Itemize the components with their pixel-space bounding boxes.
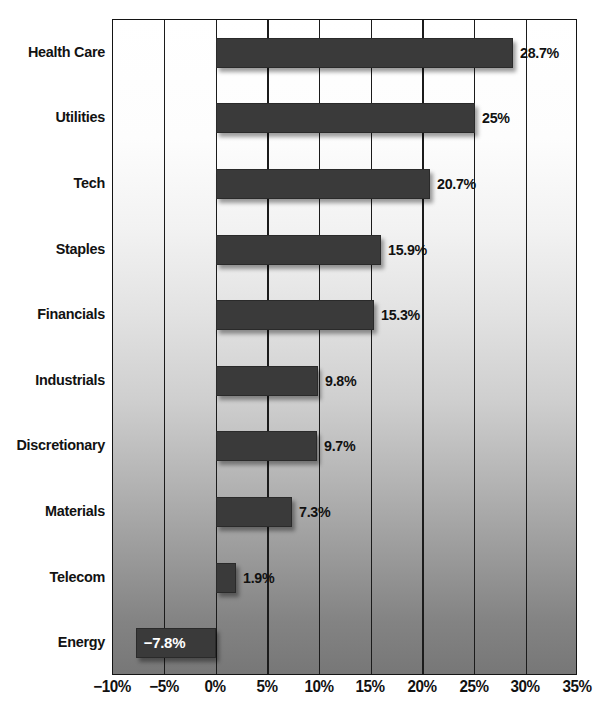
category-label-energy: Energy [7, 634, 105, 650]
x-tick-label: 5% [256, 678, 277, 696]
bar-row: 28.7% [113, 20, 576, 86]
bar-row: 25% [113, 86, 576, 152]
category-label-telecom: Telecom [7, 569, 105, 585]
bar-row: 15.3% [113, 282, 576, 348]
bar-row: 1.9% [113, 545, 576, 611]
x-tick-label: 35% [562, 678, 591, 696]
x-tick-label: 10% [304, 678, 333, 696]
bar-industrials [216, 366, 317, 396]
category-label-financials: Financials [7, 306, 105, 322]
category-label-industrials: Industrials [7, 372, 105, 388]
bar-row: 15.9% [113, 217, 576, 283]
x-tick-label: 20% [407, 678, 436, 696]
x-tick-label: 25% [459, 678, 488, 696]
bar-materials [216, 497, 291, 527]
x-tick-label: 15% [356, 678, 385, 696]
x-tick-label: 0% [205, 678, 226, 696]
category-label-discretionary: Discretionary [7, 437, 105, 453]
bar-row: −7.8% [113, 610, 576, 676]
category-label-staples: Staples [7, 241, 105, 257]
bar-value-label: 9.8% [325, 366, 356, 396]
bar-utilities [216, 103, 474, 133]
bar-row: 9.7% [113, 414, 576, 480]
bar-row: 20.7% [113, 151, 576, 217]
x-tick-label: −5% [149, 678, 178, 696]
category-axis-labels: Health CareUtilitiesTechStaplesFinancial… [0, 19, 105, 675]
bar-value-label: 15.9% [388, 235, 427, 265]
bar-row: 7.3% [113, 479, 576, 545]
bar-financials [216, 300, 374, 330]
bar-value-label: 1.9% [243, 563, 274, 593]
bar-value-label: 15.3% [381, 300, 420, 330]
bar-value-label: 7.3% [299, 497, 330, 527]
bar-value-label: 28.7% [520, 38, 559, 68]
x-tick-label: −10% [93, 678, 130, 696]
category-label-health-care: Health Care [7, 44, 105, 60]
bar-value-label: 9.7% [324, 431, 355, 461]
plot-area: 28.7%25%20.7%15.9%15.3%9.8%9.7%7.3%1.9%−… [112, 19, 577, 675]
x-axis-tick-labels: −10%−5%0%5%10%15%20%25%30%35% [112, 678, 577, 708]
x-tick-label: 30% [511, 678, 540, 696]
bar-chart: Health CareUtilitiesTechStaplesFinancial… [0, 0, 598, 722]
category-label-utilities: Utilities [7, 109, 105, 125]
bar-row: 9.8% [113, 348, 576, 414]
category-label-tech: Tech [7, 175, 105, 191]
bar-value-label: 20.7% [437, 169, 476, 199]
bar-value-label: 25% [482, 103, 510, 133]
bar-value-label: −7.8% [144, 628, 185, 658]
category-label-materials: Materials [7, 503, 105, 519]
bar-tech [216, 169, 430, 199]
bar-staples [216, 235, 380, 265]
bar-discretionary [216, 431, 316, 461]
bar-telecom [216, 563, 236, 593]
bar-health-care [216, 38, 513, 68]
